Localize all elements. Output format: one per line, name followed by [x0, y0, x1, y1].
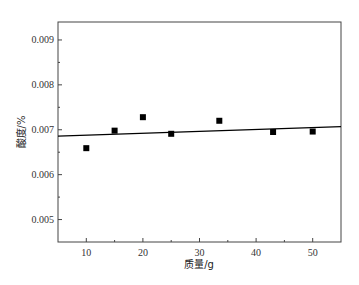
data-point-square — [83, 145, 89, 151]
y-axis-title: 酸度/% — [15, 116, 27, 149]
data-point-square — [310, 129, 316, 135]
y-axis: 0.0050.0060.0070.0080.009 — [32, 34, 63, 225]
data-point-square — [140, 114, 146, 120]
x-tick-label: 50 — [308, 247, 318, 258]
x-tick-label: 40 — [251, 247, 261, 258]
y-tick-label: 0.008 — [32, 79, 55, 90]
x-tick-label: 10 — [81, 247, 91, 258]
scatter-chart: 1020304050 0.0050.0060.0070.0080.009 质量/… — [0, 0, 359, 285]
x-tick-label: 20 — [138, 247, 148, 258]
fit-line — [58, 127, 341, 136]
x-axis-title: 质量/g — [184, 259, 214, 270]
y-tick-label: 0.006 — [32, 169, 55, 180]
y-tick-label: 0.009 — [32, 34, 55, 45]
x-tick-label: 30 — [195, 247, 205, 258]
x-axis: 1020304050 — [81, 238, 317, 258]
plot-area — [58, 22, 341, 242]
y-tick-label: 0.005 — [32, 214, 55, 225]
data-point-square — [216, 118, 222, 124]
data-point-square — [270, 129, 276, 135]
data-point-square — [112, 128, 118, 134]
y-tick-label: 0.007 — [32, 124, 55, 135]
data-series — [58, 114, 341, 151]
